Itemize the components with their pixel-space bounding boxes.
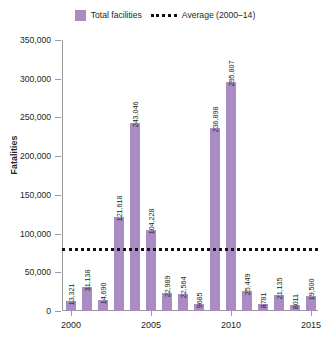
bar-value-label-2000: 13,321 <box>68 283 75 305</box>
y-axis-tick <box>55 311 61 312</box>
y-axis-tick <box>55 79 61 80</box>
bar-value-label-2003: 121,618 <box>116 195 123 221</box>
bar-2005 <box>146 230 156 311</box>
x-axis-tick <box>311 311 312 316</box>
bar-2003 <box>114 217 124 311</box>
y-axis-tick-label: 350,000 <box>20 35 51 45</box>
x-axis-tick-label: 2005 <box>141 320 161 330</box>
legend-label-average: Average (2000–14) <box>182 11 255 20</box>
y-axis-title: Fatalities <box>9 110 19 200</box>
bar-value-label-2014: 8011 <box>292 294 299 309</box>
bar-value-label-2010: 295,807 <box>228 61 235 87</box>
bar-value-label-2015: 19,500 <box>308 278 315 300</box>
y-axis-tick-label: 300,000 <box>20 74 51 84</box>
y-axis-tick <box>55 234 61 235</box>
y-axis-tick-label: 50,000 <box>25 267 51 277</box>
x-axis-tick-label: 2000 <box>61 320 81 330</box>
legend-item-total-facilities: Total facilities <box>75 10 142 21</box>
y-axis-tick-label: 150,000 <box>20 190 51 200</box>
purple-square-swatch-icon <box>75 10 86 21</box>
bar-2004 <box>130 123 140 311</box>
bar-value-label-2004: 243,046 <box>132 101 139 127</box>
x-axis-tick-label: 2015 <box>301 320 321 330</box>
y-axis-tick <box>55 272 61 273</box>
bar-value-label-2006: 22,989 <box>164 276 171 298</box>
bar-value-label-2012: 8781 <box>260 293 267 309</box>
bar-value-label-2008: 9685 <box>196 292 203 308</box>
y-axis-tick-label: 200,000 <box>20 151 51 161</box>
y-axis-tick <box>55 156 61 157</box>
legend-label-total-facilities: Total facilities <box>91 11 142 20</box>
bar-value-label-2009: 236,898 <box>212 106 219 132</box>
y-axis-tick <box>55 117 61 118</box>
y-axis-tick-label: 0 <box>46 306 51 316</box>
y-axis-tick <box>55 40 61 41</box>
plot-area: 050,000100,000150,000200,000250,000300,0… <box>62 40 318 311</box>
bar-value-label-2013: 21,135 <box>276 277 283 299</box>
x-axis-tick <box>151 311 152 316</box>
bar-value-label-2002: 14,690 <box>100 282 107 304</box>
chart-legend: Total facilities Average (2000–14) <box>0 10 330 21</box>
x-axis-tick <box>231 311 232 316</box>
bar-2009 <box>210 128 220 311</box>
y-axis-tick-label: 250,000 <box>20 112 51 122</box>
y-axis-tick-label: 100,000 <box>20 229 51 239</box>
y-axis-tick <box>55 195 61 196</box>
fatalities-bar-chart: Total facilities Average (2000–14) Fatal… <box>0 0 330 340</box>
average-reference-line <box>62 248 318 251</box>
x-axis-tick-label: 2010 <box>221 320 241 330</box>
y-axis-line <box>62 40 63 311</box>
bar-value-label-2007: 22,564 <box>180 276 187 298</box>
bar-value-label-2011: 25,449 <box>244 274 251 296</box>
bar-value-label-2001: 31,138 <box>84 269 91 291</box>
dotted-line-swatch-icon <box>151 14 177 17</box>
bar-value-label-2005: 104,228 <box>148 209 155 235</box>
legend-item-average: Average (2000–14) <box>151 11 255 20</box>
x-axis-tick <box>71 311 72 316</box>
bar-2010 <box>226 82 236 311</box>
